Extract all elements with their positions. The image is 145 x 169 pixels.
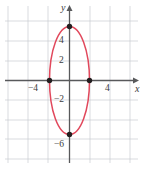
y-tick-label-2: 2 <box>59 56 64 66</box>
coordinate-plane <box>0 0 145 169</box>
point-left-vertex <box>47 78 52 83</box>
point-bottom-vertex <box>67 132 72 137</box>
grid-lines <box>5 6 138 163</box>
y-tick-label-4: 4 <box>59 36 64 46</box>
y-tick-label-neg2: −2 <box>54 95 64 105</box>
x-axis-label: x <box>135 84 139 94</box>
y-axis-arrowhead <box>67 5 73 11</box>
axes <box>5 11 133 163</box>
point-top-vertex <box>67 24 72 29</box>
y-axis-label: y <box>61 3 65 13</box>
x-tick-label-neg4: −4 <box>28 84 38 94</box>
x-tick-label-4: 4 <box>105 84 110 94</box>
y-tick-label-neg6: −6 <box>54 140 64 150</box>
point-right-vertex <box>87 78 92 83</box>
ellipse-graph-figure: y x −4 4 4 2 −2 −6 <box>0 0 145 169</box>
